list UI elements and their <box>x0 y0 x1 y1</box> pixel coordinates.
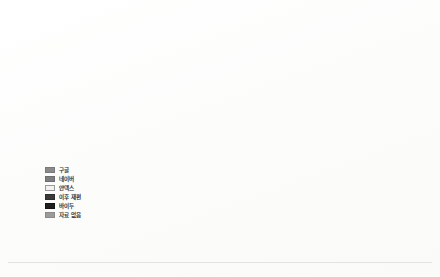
bottom-divider-rule <box>8 262 432 263</box>
legend-swatch-naver <box>45 176 55 182</box>
legend-swatch-yandex <box>45 185 55 191</box>
legend-item-yandex: 얀덱스 <box>45 184 80 192</box>
scan-speckle <box>410 194 412 196</box>
legend-label-yandex: 얀덱스 <box>59 185 74 192</box>
legend-swatch-google <box>45 167 55 173</box>
legend-label-nodata: 자료 없음 <box>59 212 80 219</box>
legend-item-reform: 이후 재편 <box>45 193 80 201</box>
world-search-engine-map-figure: .c-google{fill:#8a8a8a;stroke:#ffffff;st… <box>0 0 440 277</box>
legend-item-nodata: 자료 없음 <box>45 211 80 219</box>
legend-label-baidu: 바이두 <box>59 203 74 210</box>
legend-label-naver: 네이버 <box>59 176 74 183</box>
scan-speckle <box>172 242 174 244</box>
scan-speckle <box>298 246 300 248</box>
legend-label-reform: 이후 재편 <box>59 194 80 201</box>
legend-item-google: 구글 <box>45 166 80 174</box>
legend-swatch-reform <box>45 194 55 200</box>
legend-label-google: 구글 <box>59 167 69 174</box>
region-tasmania <box>394 235 404 242</box>
legend-swatch-baidu <box>45 203 55 209</box>
legend-item-naver: 네이버 <box>45 175 80 183</box>
scan-speckle <box>20 206 22 208</box>
legend-item-baidu: 바이두 <box>45 202 80 210</box>
scan-speckle <box>36 156 38 158</box>
legend-swatch-nodata <box>45 212 55 218</box>
map-legend: 구글 네이버 얀덱스 이후 재편 바이두 자료 없음 <box>45 166 80 219</box>
